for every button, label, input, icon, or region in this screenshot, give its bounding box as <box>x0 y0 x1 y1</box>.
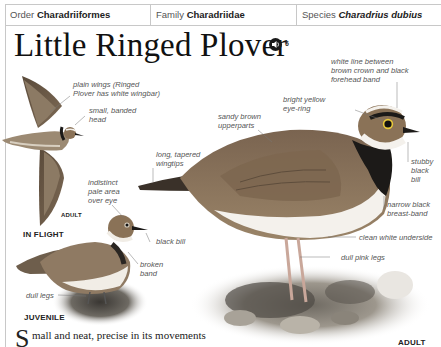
in-flight-caption: IN FLIGHT <box>23 230 64 239</box>
label-black-bill: black bill <box>156 237 185 246</box>
flight-age-caption: ADULT <box>61 212 82 218</box>
field-guide-page: Order Charadriiformes Family Charadriida… <box>0 0 441 347</box>
flight-bird-adult <box>2 76 85 226</box>
label-plain-wings: plain wings (Ringed Plover has white win… <box>73 80 160 98</box>
label-breast-band: narrow black breast-band <box>387 200 430 218</box>
plover-illustrations <box>0 0 441 347</box>
label-stubby-bill: stubby black bill <box>411 157 433 184</box>
label-upperparts: sandy brown upperparts <box>218 112 261 130</box>
label-wingtips: long, tapered wingtips <box>156 150 200 168</box>
juvenile-caption: JUVENILE <box>24 313 65 322</box>
body-text: mall and neat, precise in its movements <box>32 329 206 341</box>
label-white-line: white line between brown crown and black… <box>331 57 409 84</box>
label-underside: clean white underside <box>359 233 432 242</box>
label-small-head: small, banded head <box>89 106 136 124</box>
label-broken-band: broken band <box>140 260 163 278</box>
adult-ground-stones <box>190 265 430 345</box>
adult-caption: ADULT <box>398 338 426 347</box>
drop-cap: S <box>15 326 29 347</box>
label-legs: dull pink legs <box>341 253 385 262</box>
label-pale-area: indistinct pale area over eye <box>88 178 120 205</box>
label-dull-legs: dull legs <box>26 291 54 300</box>
label-eye-ring: bright yellow eye-ring <box>283 95 325 113</box>
